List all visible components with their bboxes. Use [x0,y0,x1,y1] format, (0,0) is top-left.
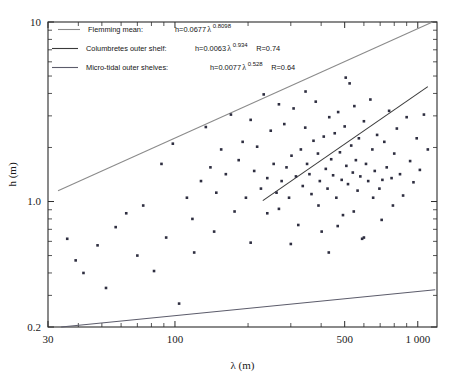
legend-formula-2: h=0.0063 [195,44,226,53]
data-point [220,148,223,151]
data-point [319,180,322,183]
legend-label-1: Flemming mean: [88,25,143,34]
data-point [266,212,269,215]
data-point [215,191,218,194]
data-point [245,196,248,199]
data-point [105,287,108,290]
legend: Flemming mean:h=0.0677λ0.8098Columbretes… [52,23,295,72]
data-point [66,237,69,240]
data-point [328,116,331,119]
data-point [82,272,85,275]
legend-label-3: Micro-tidal outer shelves: [86,63,168,72]
data-point [412,181,415,184]
data-point [288,196,291,199]
data-point [295,175,298,178]
data-point [348,82,351,85]
data-point [272,163,275,166]
data-point [337,111,340,114]
data-point [205,126,208,129]
data-point [262,93,265,96]
data-point [320,230,323,233]
legend-exponent-2: 0.934 [233,42,249,48]
data-point [114,226,117,229]
data-point [165,236,168,239]
trend-line-3 [61,290,435,327]
data-point [253,170,256,173]
data-point [392,204,395,207]
data-point [344,76,347,79]
data-point [280,180,283,183]
x-axis-title: λ (m) [231,359,255,372]
data-point [352,171,355,174]
data-point [191,218,194,221]
legend-lambda-3: λ [242,63,246,72]
data-point [290,154,293,157]
data-point [249,241,252,244]
data-point [336,225,339,228]
data-point [225,173,228,176]
data-point [327,251,330,254]
data-point [96,244,99,247]
data-point [335,196,338,199]
data-point [304,126,307,129]
data-point [304,90,307,93]
data-point [345,165,348,168]
data-point [339,151,342,154]
data-point [388,110,391,113]
data-point [300,148,303,151]
data-point [393,152,396,155]
data-point [200,180,203,183]
legend-label-2: Columbretes outer shelf: [86,44,167,53]
legend-lambda-2: λ [227,44,231,53]
data-point [363,120,366,123]
data-point [266,177,269,180]
data-point [402,194,405,197]
legend-formula-3: h=0.0077 [210,63,241,72]
data-point [285,166,288,169]
data-point [310,193,313,196]
data-point [399,173,402,176]
x-tick-label: 500 [336,333,353,345]
data-point [322,135,325,138]
data-point [160,163,163,166]
data-point [353,105,356,108]
data-point [390,177,393,180]
data-point [193,251,196,254]
x-tick-label: 100 [167,333,184,345]
data-point [178,302,181,305]
y-tick-label: 0.2 [27,321,41,333]
data-point [256,145,259,148]
data-point [249,119,252,122]
data-point [290,243,293,246]
data-point [385,166,388,169]
data-point [359,175,362,178]
data-point [125,212,128,215]
data-point [367,180,370,183]
data-point [405,116,408,119]
data-point [365,163,368,166]
data-point [419,169,422,172]
data-point [380,219,383,222]
data-point [213,230,216,233]
data-point [275,191,278,194]
data-point [237,159,240,162]
data-point [233,210,236,213]
data-point [269,129,272,132]
data-point [350,144,353,147]
data-point [358,137,361,140]
legend-formula-1: h=0.0677 [175,25,206,34]
data-point [278,208,281,211]
data-point [373,170,376,173]
y-tick-label: 1.0 [27,195,41,207]
data-point [230,113,233,116]
data-point [376,134,379,137]
data-point [352,210,355,213]
scatter-plot: Flemming mean:h=0.0677λ0.8098Columbretes… [0,0,455,384]
data-point [292,107,295,110]
data-point [355,159,358,162]
data-point [333,132,336,135]
data-point [301,185,304,188]
data-point [74,259,77,262]
y-tick-label: 10 [30,16,42,28]
data-point [330,158,333,161]
